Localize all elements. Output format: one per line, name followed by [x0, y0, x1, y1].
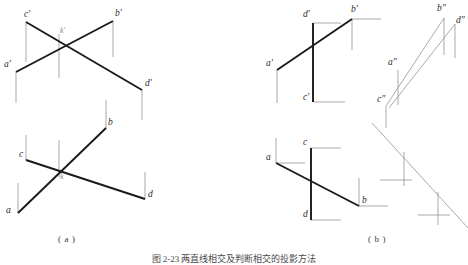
label-d-a: d — [148, 190, 153, 200]
label-a-prime-b: a′ — [266, 59, 273, 69]
heavy-object-lines — [16, 19, 359, 220]
line-a-double-prime-d-double-prime — [389, 24, 455, 108]
diagonal-axis — [372, 123, 468, 228]
label-b-a: b — [108, 118, 113, 128]
label-b-prime-b: b′ — [351, 5, 358, 15]
segment-a-b — [276, 163, 359, 206]
label-b-b: b — [362, 196, 367, 206]
label-k-a: k — [60, 173, 64, 181]
segment-a-b — [18, 128, 106, 213]
label-c-prime-a: c′ — [24, 10, 30, 20]
label-a-double-prime-b: a″ — [388, 58, 397, 68]
label-a-b: a — [266, 153, 271, 163]
label-d-prime-a: d′ — [145, 79, 152, 89]
label-c-double-prime-b: c″ — [377, 95, 385, 105]
label-c-a: c — [19, 150, 23, 160]
label-b-prime-a: b′ — [115, 9, 122, 19]
label-a-prime-a: a′ — [4, 60, 11, 70]
segment-a-prime-b-prime — [277, 19, 352, 70]
segment-c-prime-d-prime — [26, 22, 142, 90]
label-d-prime-b: d′ — [303, 10, 310, 20]
label-d-double-prime-b: d″ — [456, 16, 465, 26]
label-c-b: c — [303, 138, 307, 148]
segment-c-d — [26, 160, 145, 199]
panel-label-b: ( b ) — [368, 234, 386, 244]
label-c-prime-b: c′ — [303, 93, 309, 103]
light-construction-lines — [16, 18, 468, 228]
label-k-prime-a: k′ — [60, 27, 65, 35]
label-d-b: d — [303, 210, 308, 220]
label-b-double-prime-b: b″ — [437, 4, 446, 14]
figure-caption: 图 2-23 两直线相交及判断相交的投影方法 — [0, 252, 468, 265]
panel-label-a: ( a ) — [58, 234, 76, 244]
label-a-a: a — [6, 206, 11, 216]
